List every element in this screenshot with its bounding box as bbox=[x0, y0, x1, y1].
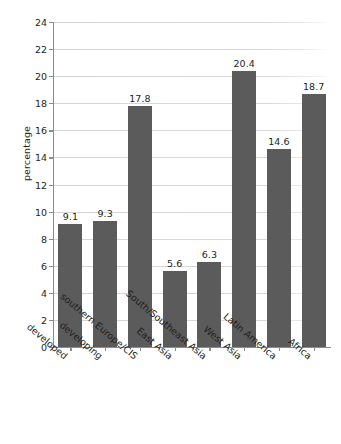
bar-value-label: 9.1 bbox=[63, 211, 78, 222]
y-tick-label: 14 bbox=[35, 152, 47, 163]
x-tick-mark bbox=[209, 347, 210, 351]
y-tick-label: 24 bbox=[35, 17, 47, 28]
x-tick-mark bbox=[140, 347, 141, 351]
y-axis-line bbox=[53, 22, 54, 347]
y-tick-mark bbox=[49, 49, 53, 50]
bar-chart: percentage 024681012141618202224 9.19.31… bbox=[0, 0, 341, 444]
x-tick-mark bbox=[175, 347, 176, 351]
y-tick-mark bbox=[49, 266, 53, 267]
y-tick-mark bbox=[49, 157, 53, 158]
y-tick-label: 6 bbox=[41, 260, 47, 271]
x-tick-mark bbox=[314, 347, 315, 351]
gridline bbox=[53, 49, 331, 50]
bar-value-label: 5.6 bbox=[167, 258, 182, 269]
y-tick-mark bbox=[49, 76, 53, 77]
y-tick-mark bbox=[49, 293, 53, 294]
y-tick-label: 22 bbox=[35, 44, 47, 55]
caption-bleed bbox=[0, 438, 341, 444]
y-tick-mark bbox=[49, 212, 53, 213]
bar: 18.7 bbox=[302, 94, 326, 347]
y-tick-label: 2 bbox=[41, 314, 47, 325]
bar: 14.6 bbox=[267, 149, 291, 347]
y-tick-label: 12 bbox=[35, 179, 47, 190]
y-tick-mark bbox=[49, 185, 53, 186]
gridline bbox=[53, 103, 331, 104]
x-tick-mark bbox=[244, 347, 245, 351]
bar-value-label: 14.6 bbox=[268, 136, 289, 147]
y-tick-label: 16 bbox=[35, 125, 47, 136]
bar-value-label: 17.8 bbox=[129, 93, 150, 104]
x-tick-mark bbox=[70, 347, 71, 351]
bar-value-label: 20.4 bbox=[234, 58, 255, 69]
y-tick-label: 20 bbox=[35, 71, 47, 82]
y-tick-mark bbox=[49, 320, 53, 321]
x-tick-label-wrapper: Africa bbox=[307, 353, 335, 379]
gridline bbox=[53, 130, 331, 131]
y-tick-label: 4 bbox=[41, 287, 47, 298]
y-tick-label: 8 bbox=[41, 233, 47, 244]
plot-area: 024681012141618202224 9.19.317.85.66.320… bbox=[53, 22, 331, 347]
bar-value-label: 18.7 bbox=[303, 81, 324, 92]
gridline bbox=[53, 76, 331, 77]
bar-value-label: 9.3 bbox=[98, 208, 113, 219]
x-tick-mark bbox=[279, 347, 280, 351]
y-tick-label: 18 bbox=[35, 98, 47, 109]
y-axis-title: percentage bbox=[21, 102, 32, 206]
y-tick-mark bbox=[49, 22, 53, 23]
y-tick-label: 10 bbox=[35, 206, 47, 217]
y-tick-mark bbox=[49, 239, 53, 240]
bar-value-label: 6.3 bbox=[202, 249, 217, 260]
bar: 20.4 bbox=[232, 71, 256, 347]
y-tick-mark bbox=[49, 130, 53, 131]
y-tick-mark bbox=[49, 103, 53, 104]
gridline bbox=[53, 22, 331, 23]
x-tick-mark bbox=[105, 347, 106, 351]
